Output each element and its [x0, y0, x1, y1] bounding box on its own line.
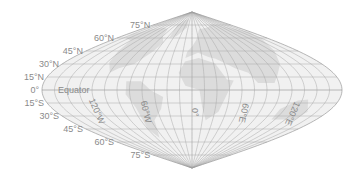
latitude-label: 45°S — [63, 124, 83, 134]
latitude-label: 75°S — [131, 150, 151, 160]
latitude-label: 75°N — [130, 20, 150, 30]
latitude-label: 45°N — [63, 46, 83, 56]
latitude-label: 0° — [30, 85, 39, 95]
latitude-label: 30°S — [39, 111, 59, 121]
latitude-label: 15°N — [24, 72, 44, 82]
latitude-label: 60°N — [94, 33, 114, 43]
equator-label: Equator — [58, 85, 90, 95]
longitude-label: 0° — [190, 108, 200, 117]
latitude-label: 30°N — [39, 59, 59, 69]
latitude-label: 60°S — [94, 137, 114, 147]
sinusoidal-world-map: 75°N60°N45°N30°N15°N0°15°S30°S45°S60°S75… — [0, 0, 362, 182]
latitude-label: 15°S — [24, 98, 44, 108]
